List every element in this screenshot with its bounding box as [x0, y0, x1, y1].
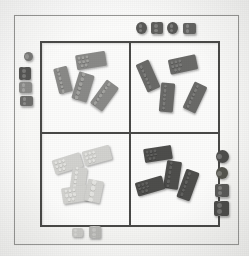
brick-top-face [71, 71, 89, 101]
piece-stud [154, 22, 158, 23]
tray-quadrant-top-right[interactable] [131, 43, 218, 132]
photo-scene [0, 0, 249, 256]
brick-top-face [163, 160, 177, 189]
loose-top-2[interactable] [151, 22, 163, 34]
tray-quadrant-bottom-right[interactable] [131, 134, 218, 225]
piece-stud [139, 29, 143, 33]
brick-tr-2[interactable] [168, 54, 199, 74]
brick-stud [178, 67, 181, 70]
piece-stud [92, 228, 96, 232]
brick-stud [141, 183, 144, 186]
loose-top-1[interactable] [136, 22, 147, 34]
brick-stud [164, 84, 168, 88]
brick-stud [154, 153, 157, 156]
brick-stud [153, 149, 156, 152]
piece-top-face [214, 201, 226, 216]
piece-stud [92, 237, 96, 238]
piece-stud [22, 74, 26, 78]
brick-top-face [61, 186, 80, 204]
brick-stud [178, 59, 181, 62]
brick-bl-2[interactable] [82, 145, 113, 167]
brick-stud [91, 179, 97, 185]
piece-stud [218, 196, 222, 197]
brick-stud [93, 154, 97, 158]
brick-stud [163, 93, 167, 97]
brick-top-face [75, 53, 93, 70]
loose-left-3[interactable] [19, 82, 32, 93]
brick-top-face [168, 57, 187, 75]
tray-quadrant-bottom-left[interactable] [42, 134, 129, 225]
loose-bottom-2[interactable] [89, 226, 101, 238]
loose-right-1[interactable] [216, 150, 229, 163]
loose-right-3[interactable] [215, 184, 229, 197]
brick-tr-4[interactable] [183, 81, 208, 113]
brick-br-3[interactable] [135, 175, 166, 196]
loose-bottom-1[interactable] [72, 228, 83, 237]
loose-right-2[interactable] [216, 167, 228, 179]
loose-left-2[interactable] [19, 67, 31, 80]
piece-stud [217, 201, 222, 202]
brick-stud [92, 159, 96, 163]
brick-stud [71, 197, 75, 201]
loose-top-3[interactable] [167, 22, 178, 34]
piece-stud [22, 69, 26, 73]
brick-top-face [82, 148, 101, 167]
brick-stud [81, 64, 84, 67]
piece-top-face [24, 52, 29, 61]
brick-top-face [84, 179, 100, 203]
piece-stud [92, 233, 96, 237]
brick-stud [171, 61, 174, 64]
loose-left-4[interactable] [20, 96, 33, 106]
brick-stud [73, 180, 77, 184]
brick-tr-3[interactable] [159, 82, 175, 112]
brick-tl-2[interactable] [75, 51, 107, 71]
brick-stud [74, 175, 78, 179]
brick-stud [162, 106, 166, 110]
brick-stud [61, 89, 65, 93]
brick-stud [82, 60, 85, 63]
piece-stud [139, 24, 143, 28]
brick-stud [74, 95, 79, 100]
brick-stud [75, 166, 79, 170]
brick-stud [141, 190, 144, 193]
sorting-tray[interactable] [40, 41, 220, 227]
piece-stud [23, 97, 26, 100]
brick-stud [58, 76, 62, 80]
loose-left-1[interactable] [24, 52, 33, 61]
brick-tl-4[interactable] [90, 79, 119, 111]
brick-tl-1[interactable] [53, 66, 73, 95]
brick-stud [187, 172, 191, 176]
loose-right-4[interactable] [214, 201, 229, 216]
piece-stud [22, 67, 26, 68]
piece-stud [218, 186, 222, 190]
brick-bl-5[interactable] [84, 179, 104, 204]
brick-stud [86, 55, 89, 58]
piece-top-face [19, 67, 29, 80]
piece-stud [217, 203, 222, 208]
loose-top-4[interactable] [183, 23, 196, 34]
piece-stud [217, 209, 222, 214]
brick-top-face [143, 147, 160, 163]
piece-stud [154, 29, 158, 33]
piece-top-face [167, 22, 176, 34]
piece-stud [22, 83, 26, 87]
brick-stud [69, 193, 73, 197]
brick-top-face [90, 79, 115, 108]
brick-stud [174, 60, 177, 63]
piece-stud [170, 24, 174, 28]
piece-stud [170, 29, 174, 33]
tray-quadrant-top-left[interactable] [42, 43, 129, 132]
brick-stud [186, 104, 191, 109]
brick-stud [64, 194, 68, 198]
brick-stud [82, 56, 85, 59]
brick-stud [162, 98, 166, 102]
brick-tr-1[interactable] [136, 59, 161, 92]
piece-top-face [183, 23, 192, 34]
brick-top-face [53, 67, 68, 94]
brick-stud [148, 85, 152, 89]
brick-stud [80, 77, 85, 82]
brick-stud [168, 170, 172, 174]
brick-tl-3[interactable] [71, 71, 94, 102]
piece-top-face [136, 22, 145, 34]
brick-stud [90, 185, 96, 191]
